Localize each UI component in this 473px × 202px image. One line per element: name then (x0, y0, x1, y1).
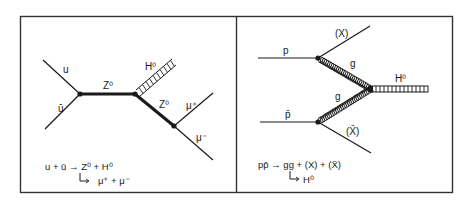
label-ubar: ū (58, 103, 64, 114)
label-h0: H⁰ (145, 61, 156, 72)
vertex-dot (368, 86, 373, 92)
label-z0-propagator: Z⁰ (103, 80, 113, 91)
equation-line-2: H⁰ (303, 174, 314, 185)
label-mu-plus: μ⁺ (186, 100, 197, 111)
vertex-dot (132, 91, 137, 96)
vertex-dot (315, 119, 320, 124)
gluon-line-lower (316, 86, 373, 124)
label-h0-right: H⁰ (395, 73, 406, 84)
remnant-xbar-line (318, 122, 371, 153)
right-panel-diagram: p p̄ (X) g g (X̄) H⁰ pp̄ → gg + (X) + (X… (258, 26, 428, 185)
left-panel-diagram: u ū Z⁰ H⁰ Z⁰ μ⁺ μ⁻ u + ū → Z⁰ + H⁰ μ⁺ + … (43, 59, 213, 186)
vertex-dot (77, 91, 82, 96)
gluon-line-upper (316, 55, 375, 93)
label-z0-outgoing: Z⁰ (159, 99, 169, 110)
equation-line-2: μ⁺ + μ⁻ (98, 175, 130, 186)
feynman-diagrams-figure: u ū Z⁰ H⁰ Z⁰ μ⁺ μ⁻ u + ū → Z⁰ + H⁰ μ⁺ + … (0, 0, 473, 202)
equation-line-1: pp̄ → gg + (X) + (X̄) (258, 159, 341, 170)
equation-line-1: u + ū → Z⁰ + H⁰ (45, 161, 113, 172)
vertex-dot (315, 55, 320, 60)
label-gluon-lower: g (335, 91, 341, 102)
label-pbar: p̄ (285, 109, 291, 120)
label-mu-minus: μ⁻ (196, 132, 207, 143)
label-p: p (283, 45, 289, 56)
label-xbar: (X̄) (346, 125, 359, 137)
u-quark-line (43, 60, 80, 94)
label-x: (X) (335, 28, 348, 39)
muon-minus-line (174, 126, 213, 160)
higgs-hatched-line-right (372, 86, 428, 92)
vertex-dot (171, 123, 176, 128)
label-u: u (63, 64, 69, 75)
label-gluon-upper: g (350, 58, 356, 69)
